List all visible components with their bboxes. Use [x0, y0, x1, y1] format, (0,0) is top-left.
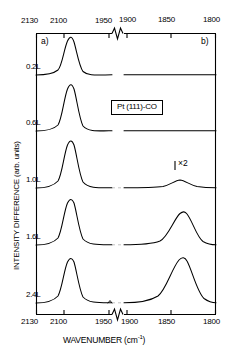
- curve-label-0-2L: 0.2L: [26, 63, 40, 71]
- top-tick-label-1800: 1800: [203, 16, 220, 24]
- top-tick-label-2130: 2130: [21, 17, 38, 25]
- x-axis-title-main: WAVENUMBER (cm: [63, 335, 138, 345]
- bottom-tick-label-1950: 1950: [95, 318, 112, 326]
- axis-break-top-icon: [112, 28, 123, 39]
- curve-label-1-0L: 1.0L: [26, 176, 40, 184]
- curve-label-1-6L: 1.6L: [26, 233, 40, 241]
- bottom-tick-label-2130: 2130: [21, 318, 38, 326]
- bottom-tick-label-1850: 1850: [158, 318, 175, 326]
- top-tick-marks: [37, 34, 216, 39]
- bottom-tick-marks: [37, 310, 216, 315]
- curve-label-0-6L: 0.6L: [26, 119, 40, 127]
- trace-1.6L: [36, 199, 216, 245]
- top-tick-label-1850: 1850: [158, 16, 175, 24]
- trace-1.0L: [36, 141, 216, 188]
- top-tick-label-1950: 1950: [95, 17, 112, 25]
- bottom-tick-label-1900: 1900: [121, 318, 138, 326]
- legend-sample-label: Pt (111)-CO: [111, 100, 163, 115]
- spectra-traces: [36, 37, 216, 303]
- top-tick-label-1900: 1900: [119, 16, 136, 24]
- panel-label-a: a): [41, 37, 49, 46]
- bottom-tick-label-1800: 1800: [203, 318, 220, 326]
- plot-frame: [36, 34, 216, 315]
- scale-factor-annotation: ×2: [178, 159, 188, 168]
- bottom-tick-label-2100: 2100: [50, 318, 67, 326]
- trace-2.4L: [36, 258, 216, 303]
- panel-label-b: b): [201, 37, 209, 46]
- y-axis-title: INTENSITY DIFFERENCE (arb. units): [13, 141, 21, 270]
- top-tick-label-2100: 2100: [50, 17, 67, 25]
- curve-label-2-4L: 2.4L: [26, 291, 40, 299]
- trace-0.2L: [36, 37, 216, 75]
- x-axis-title: WAVENUMBER (cm-1): [63, 334, 145, 344]
- spectra-figure: 2130 2100 1950 1900 1850 1800 2130 2100 …: [0, 0, 242, 356]
- break-dashes: [112, 188, 124, 303]
- x-axis-title-tail: ): [143, 335, 146, 345]
